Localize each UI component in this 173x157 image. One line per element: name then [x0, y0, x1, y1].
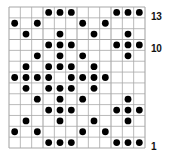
stitch-dot-row10-col11 — [125, 42, 132, 49]
stitch-dot-row4-col4 — [45, 107, 52, 114]
stitch-dot-row2-col3 — [34, 128, 41, 135]
stitch-dot-row11-col5 — [57, 31, 64, 38]
stitch-dot-row5-col5 — [57, 96, 64, 103]
stitch-dot-row2-col1 — [11, 128, 18, 135]
stitch-dot-row12-col7 — [79, 20, 86, 27]
stitch-dot-row7-col7 — [79, 74, 86, 81]
stitch-dot-row10-col4 — [45, 42, 52, 49]
stitch-dot-row2-col9 — [102, 128, 109, 135]
stitch-dot-row12-col1 — [11, 20, 18, 27]
stitch-dot-row3-col5 — [57, 117, 64, 124]
stitch-dot-row1-col6 — [68, 139, 75, 146]
stitch-dot-row4-col11 — [125, 107, 132, 114]
stitch-dot-row10-col12 — [136, 42, 143, 49]
row-label-1: 1 — [151, 142, 156, 152]
stitch-dot-row13-col10 — [113, 9, 120, 16]
stitch-dot-row8-col6 — [68, 63, 75, 70]
stitch-dot-row5-col3 — [34, 96, 41, 103]
stitch-dot-row7-col6 — [68, 74, 75, 81]
stitch-dot-row1-col4 — [45, 139, 52, 146]
stitch-dot-row6-col6 — [68, 85, 75, 92]
stitch-dot-row8-col5 — [57, 63, 64, 70]
stitch-dot-row6-col4 — [45, 85, 52, 92]
stitch-dot-row1-col11 — [125, 139, 132, 146]
stitch-dot-row4-col12 — [136, 107, 143, 114]
stitch-dot-row9-col3 — [34, 52, 41, 59]
knitting-chart — [0, 0, 173, 157]
stitch-dot-row3-col11 — [125, 117, 132, 124]
stitch-dot-row9-col5 — [57, 52, 64, 59]
stitch-dot-row7-col4 — [45, 74, 52, 81]
stitch-dot-row10-col10 — [113, 42, 120, 49]
stitch-dot-row1-col10 — [113, 139, 120, 146]
row-label-13: 13 — [151, 12, 162, 22]
stitch-dot-row12-col3 — [34, 20, 41, 27]
stitch-dot-row1-col5 — [57, 139, 64, 146]
stitch-dot-row9-col11 — [125, 52, 132, 59]
stitch-dot-row7-col1 — [11, 74, 18, 81]
stitch-dot-row5-col11 — [125, 96, 132, 103]
stitch-dot-row6-col8 — [91, 85, 98, 92]
stitch-dot-row7-col8 — [91, 74, 98, 81]
stitch-dot-row11-col11 — [125, 31, 132, 38]
stitch-dot-row8-col4 — [45, 63, 52, 70]
stitch-dot-row3-col2 — [23, 117, 30, 124]
stitch-dot-row13-col6 — [68, 9, 75, 16]
stitch-dot-row4-col5 — [57, 107, 64, 114]
stitch-dot-row6-col2 — [23, 85, 30, 92]
stitch-dot-row7-col3 — [34, 74, 41, 81]
stitch-dot-row5-col7 — [79, 96, 86, 103]
stitch-dot-row11-col2 — [23, 31, 30, 38]
stitch-dot-row13-col5 — [57, 9, 64, 16]
stitch-dot-row8-col2 — [23, 63, 30, 70]
stitch-dot-row13-col12 — [136, 9, 143, 16]
stitch-dot-row9-col7 — [79, 52, 86, 59]
stitch-dot-row3-col8 — [91, 117, 98, 124]
stitch-dot-row10-col5 — [57, 42, 64, 49]
stitch-dot-row7-col2 — [23, 74, 30, 81]
stitch-dot-row13-col4 — [45, 9, 52, 16]
stitch-dot-row4-col6 — [68, 107, 75, 114]
stitch-dot-row2-col7 — [79, 128, 86, 135]
stitch-dot-row11-col8 — [91, 31, 98, 38]
stitch-dot-row10-col6 — [68, 42, 75, 49]
stitch-dot-row12-col9 — [102, 20, 109, 27]
stitch-dot-row13-col11 — [125, 9, 132, 16]
stitch-dot-row1-col12 — [136, 139, 143, 146]
stitch-dot-row7-col9 — [102, 74, 109, 81]
stitch-dot-row8-col8 — [91, 63, 98, 70]
stitch-dot-row4-col10 — [113, 107, 120, 114]
row-label-10: 10 — [151, 44, 162, 54]
stitch-dot-row6-col5 — [57, 85, 64, 92]
